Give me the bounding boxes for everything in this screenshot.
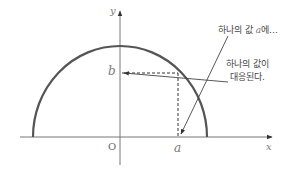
pointer-to-b bbox=[124, 73, 228, 82]
input-note-suffix: 에… bbox=[261, 25, 278, 35]
y-axis-label: y bbox=[110, 6, 116, 16]
output-note-line2: 대응된다. bbox=[226, 71, 269, 84]
output-note: 하나의 값이 대응된다. bbox=[226, 58, 269, 84]
point-b-label: b bbox=[108, 65, 116, 77]
x-axis-label: x bbox=[266, 142, 272, 152]
diagram: y x O a b 하나의 값 a에… 하나의 값이 대응된다. bbox=[0, 0, 293, 173]
origin-label: O bbox=[108, 142, 116, 152]
output-note-line1: 하나의 값이 bbox=[226, 58, 269, 71]
input-note: 하나의 값 a에… bbox=[218, 24, 278, 37]
point-a-label: a bbox=[174, 142, 181, 154]
input-note-prefix: 하나의 값 bbox=[218, 25, 256, 35]
